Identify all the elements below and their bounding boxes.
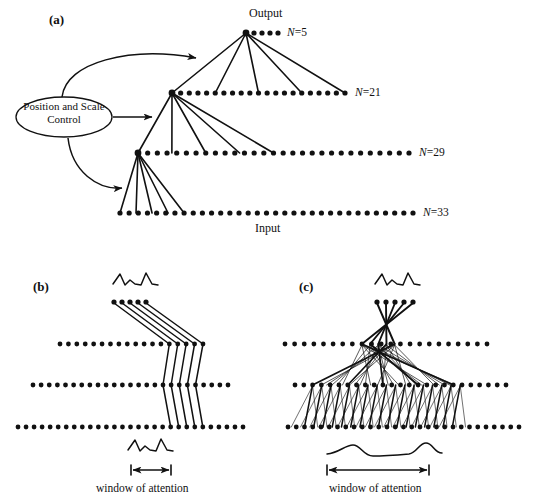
panel-c-row0-dot	[331, 342, 336, 347]
layer-2-dot	[145, 150, 150, 155]
fan-node	[243, 30, 250, 37]
panel-b-row2-dot	[112, 425, 117, 430]
panel-c-row2-dot	[467, 425, 472, 430]
panel-b-row2-dot	[136, 425, 141, 430]
panel-b-window-label: window of attention	[96, 483, 189, 495]
panel-b-row2-dot	[96, 425, 101, 430]
panel-b-row2-dot	[144, 425, 149, 430]
panel-b-row2-dot	[56, 425, 61, 430]
layer-3-dot	[154, 210, 159, 215]
layer-2-dot	[193, 150, 198, 155]
layer-3-dot	[246, 210, 251, 215]
control-box-text: Position and Scale Control	[20, 100, 108, 125]
layer-2-dot	[310, 150, 315, 155]
panel-b-row1-dot	[96, 383, 101, 388]
panel-c-row2-dot	[492, 425, 497, 430]
panel-c-row0-dot	[292, 342, 297, 347]
panel-b-row1-dot	[71, 383, 76, 388]
panel-b-row0-dot	[142, 342, 147, 347]
layer-2-dot	[339, 150, 344, 155]
panel-b-row1-dot	[31, 383, 36, 388]
panel-b-row2-dot	[225, 425, 230, 430]
panel-b-row2-dot	[241, 425, 246, 430]
layer-3-dot	[227, 210, 232, 215]
fan-edge	[172, 93, 274, 153]
layer-2-dot	[319, 150, 324, 155]
panel-b-row2-dot	[120, 425, 125, 430]
n-label-output: N=5	[287, 27, 307, 39]
figure-canvas: (a) Output Input Position and Scale Cont…	[0, 0, 534, 501]
layer-3-dot	[218, 210, 223, 215]
panel-b-letter: (b)	[33, 280, 49, 293]
panel-c-row0-dot	[417, 342, 422, 347]
panel-b-edge-mid	[179, 344, 186, 385]
panel-b-row0-dot	[58, 342, 63, 347]
panel-c-row2-dot	[500, 425, 505, 430]
fan-edge	[172, 93, 240, 153]
panel-c-row0-dot	[485, 342, 490, 347]
layer-2-dot	[329, 150, 334, 155]
fan-edge	[138, 93, 172, 153]
layer-1-dot	[204, 90, 209, 95]
layer-1-dot	[334, 90, 339, 95]
layer-2-dot	[397, 150, 402, 155]
panel-c-row0-dot	[302, 342, 307, 347]
fan-edge	[172, 93, 206, 153]
panel-b-graphics	[16, 273, 246, 475]
panel-b-edge-low	[163, 385, 171, 427]
panel-b-row1-dot	[39, 383, 44, 388]
panel-c-edge-top	[362, 303, 413, 344]
panel-b-row0-dot	[74, 342, 79, 347]
panel-c-row0-dot	[456, 342, 461, 347]
panel-b-row0-dot	[150, 342, 155, 347]
panel-c-row0-dot	[446, 342, 451, 347]
layer-1-dot	[308, 90, 313, 95]
output-label: Output	[249, 7, 282, 19]
panel-b-row2-dot	[48, 425, 53, 430]
panel-c-row2-dot	[508, 425, 513, 430]
panel-c-row1-dot	[486, 383, 491, 388]
panel-b-edge-mid	[196, 344, 204, 385]
layer-2-dot	[300, 150, 305, 155]
panel-b-edge-mid	[163, 344, 169, 385]
panel-b-edge-low	[196, 385, 203, 427]
fan-node	[169, 90, 176, 97]
panel-c-row0-dot	[321, 342, 326, 347]
fan-edge	[138, 153, 168, 213]
layer-2-dot	[252, 150, 257, 155]
panel-b-edge-low	[179, 385, 187, 427]
panel-b-row2-dot	[40, 425, 45, 430]
panel-b-row0-dot	[91, 342, 96, 347]
panel-b-row1-dot	[55, 383, 60, 388]
layer-2-dot	[261, 150, 266, 155]
panel-b-row0-dot	[83, 342, 88, 347]
layer-1-dot	[247, 90, 252, 95]
layer-3-dot	[200, 210, 205, 215]
panel-b-edge-top	[122, 303, 178, 344]
layer-3-dot	[301, 210, 306, 215]
layer-3-dot	[383, 210, 388, 215]
layer-2-dot	[184, 150, 189, 155]
panel-c-edge-dense-lower	[460, 386, 465, 427]
layer-0-dot	[267, 30, 272, 35]
layer-2-dot	[174, 150, 179, 155]
panel-c-row2-dot	[352, 425, 357, 430]
panel-b-row1-dot	[87, 383, 92, 388]
layer-1-dot	[195, 90, 200, 95]
layer-3-dot	[209, 210, 214, 215]
layer-3-dot	[365, 210, 370, 215]
panel-b-row2-dot	[32, 425, 37, 430]
panel-b-row2-dot	[104, 425, 109, 430]
panel-b-row1-dot	[136, 383, 141, 388]
panel-c-output-waveform	[375, 273, 420, 285]
layer-3-dot	[346, 210, 351, 215]
panel-b-row1-dot	[226, 383, 231, 388]
fan-edge	[120, 153, 138, 213]
panel-c-input-waveform	[327, 443, 442, 456]
layer-1-dot	[239, 90, 244, 95]
panel-b-row2-dot	[233, 425, 238, 430]
layer-3-dot	[145, 210, 150, 215]
panel-c-edge-dense-upper	[342, 345, 361, 385]
layer-3-dot	[172, 210, 177, 215]
panel-b-edge-top	[146, 303, 203, 344]
